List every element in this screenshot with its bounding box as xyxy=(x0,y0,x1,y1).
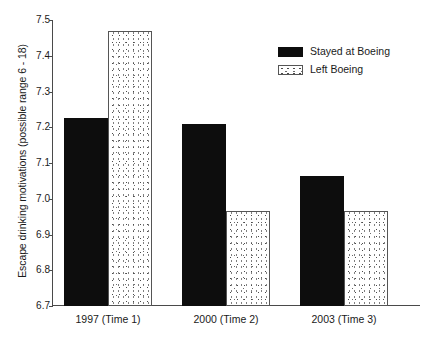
y-tick-mark xyxy=(49,235,53,236)
x-tick-label: 2000 (Time 2) xyxy=(160,312,292,326)
y-tick-label: 7.5 xyxy=(14,14,50,26)
y-tick-mark xyxy=(49,92,53,93)
bar-chart-figure: Escape drinking motivations (possible ra… xyxy=(0,0,436,344)
x-tick-label: 1997 (Time 1) xyxy=(42,312,174,326)
y-tick-mark xyxy=(49,199,53,200)
y-tick-mark xyxy=(49,127,53,128)
legend-label: Stayed at Boeing xyxy=(310,44,390,59)
y-tick-mark xyxy=(49,56,53,57)
legend-label: Left Boeing xyxy=(310,62,363,77)
y-tick-label: 6.8 xyxy=(14,264,50,276)
y-tick-mark xyxy=(49,270,53,271)
y-tick-label: 7.3 xyxy=(14,86,50,98)
y-tick-label: 6.7 xyxy=(14,300,50,312)
bar-left-1 xyxy=(108,31,152,306)
legend-item: Left Boeing xyxy=(278,62,390,77)
bar-left-2 xyxy=(226,211,270,306)
y-tick-label: 7.4 xyxy=(14,50,50,62)
y-tick-label: 6.9 xyxy=(14,229,50,241)
legend-item: Stayed at Boeing xyxy=(278,44,390,59)
bar-left-3 xyxy=(344,211,388,306)
y-tick-mark xyxy=(49,306,53,307)
y-tick-mark xyxy=(49,163,53,164)
y-tick-label: 7.1 xyxy=(14,157,50,169)
y-tick-label: 7.2 xyxy=(14,121,50,133)
bar-stayed-2 xyxy=(182,124,226,306)
bar-stayed-1 xyxy=(64,118,108,306)
y-tick-label: 7.0 xyxy=(14,193,50,205)
legend-swatch-left xyxy=(278,65,303,75)
legend-swatch-stayed xyxy=(278,47,303,57)
x-tick-label: 2003 (Time 3) xyxy=(278,312,410,326)
chart-legend: Stayed at BoeingLeft Boeing xyxy=(278,44,390,80)
bar-stayed-3 xyxy=(300,176,344,306)
y-tick-mark xyxy=(49,20,53,21)
